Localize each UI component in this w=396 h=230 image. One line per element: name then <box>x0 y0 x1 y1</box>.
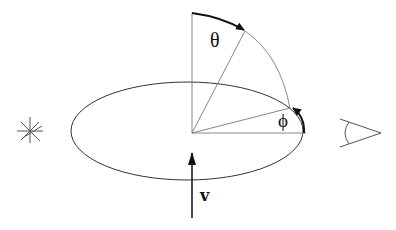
theta-arrow <box>192 13 244 30</box>
eye-icon <box>340 119 381 147</box>
orbit-ellipse <box>71 82 303 180</box>
star-icon <box>17 117 43 143</box>
meridian-arc <box>245 31 290 108</box>
phi-arrow <box>293 108 304 133</box>
geometry-diagram: θ ϕ v <box>0 0 396 230</box>
phi-label: ϕ <box>278 110 288 131</box>
theta-label: θ <box>210 29 220 51</box>
phi-radial-line <box>192 108 290 133</box>
velocity-label: v <box>199 186 210 205</box>
